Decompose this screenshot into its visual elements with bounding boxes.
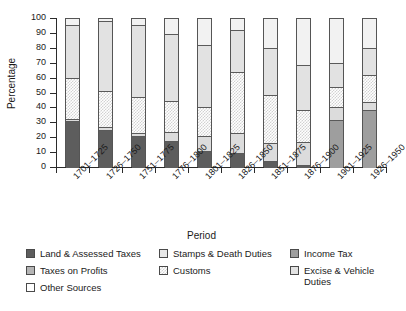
legend-item[interactable]: Customs: [159, 265, 287, 276]
y-tick-label: 70: [0, 58, 46, 67]
y-tick-label: 80: [0, 43, 46, 52]
bar-segment-customs: [132, 98, 145, 134]
bar-segment-excise-vehicle-duties: [297, 66, 310, 111]
legend-swatch-icon: [26, 283, 35, 292]
bar-segment-other-sources: [264, 19, 277, 49]
bar-segment-other-sources: [363, 19, 376, 49]
legend-label: Land & Assessed Taxes: [40, 248, 141, 259]
bar-segment-other-sources: [231, 19, 244, 31]
y-tick-label: 30: [0, 117, 46, 126]
bar-segment-excise-vehicle-duties: [99, 22, 112, 92]
legend-swatch-icon: [290, 249, 299, 258]
legend-label: Customs: [173, 265, 210, 276]
legend-label: Taxes on Profits: [40, 265, 108, 276]
legend-item[interactable]: Income Tax: [290, 248, 390, 259]
legend-column: Income TaxExcise & Vehicle Duties: [290, 248, 390, 293]
y-axis-title: Percentage: [6, 42, 17, 126]
bar-segment-other-sources: [330, 19, 343, 64]
bar-segment-excise-vehicle-duties: [165, 35, 178, 102]
legend-label: Other Sources: [40, 282, 101, 293]
bar-segment-customs: [231, 73, 244, 134]
legend-swatch-icon: [26, 249, 35, 258]
legend-item[interactable]: Land & Assessed Taxes: [26, 248, 154, 259]
bar-1701–1725: [65, 18, 80, 167]
bar-segment-other-sources: [297, 19, 310, 66]
y-tick-label: 0: [0, 162, 46, 171]
bar-segment-customs: [264, 96, 277, 144]
bar-segment-customs: [66, 79, 79, 119]
y-tick-label: 20: [0, 132, 46, 141]
bar-segment-excise-vehicle-duties: [264, 49, 277, 96]
legend-swatch-icon: [159, 249, 168, 258]
legend-item[interactable]: Stamps & Death Duties: [159, 248, 287, 259]
legend-label: Excise & Vehicle Duties: [304, 265, 384, 287]
bar-segment-stamps-death-duties: [330, 108, 343, 121]
bar-segment-stamps-death-duties: [165, 133, 178, 142]
bar-segment-other-sources: [165, 19, 178, 35]
legend-label: Stamps & Death Duties: [173, 248, 272, 259]
legend-column: Stamps & Death DutiesCustoms: [159, 248, 287, 282]
bar-segment-excise-vehicle-duties: [231, 31, 244, 73]
y-tick-label: 100: [0, 13, 46, 22]
bar-segment-customs: [297, 111, 310, 142]
legend-swatch-icon: [290, 266, 299, 275]
legend-item[interactable]: Taxes on Profits: [26, 265, 154, 276]
bar-segment-other-sources: [132, 19, 145, 26]
y-tick-label: 10: [0, 147, 46, 156]
bar-segment-excise-vehicle-duties: [198, 46, 211, 108]
legend-swatch-icon: [159, 266, 168, 275]
bar-segment-excise-vehicle-duties: [363, 49, 376, 76]
legend-column: Land & Assessed TaxesTaxes on ProfitsOth…: [26, 248, 154, 299]
y-tick-label: 90: [0, 28, 46, 37]
bar-segment-excise-vehicle-duties: [66, 26, 79, 80]
bar-segment-stamps-death-duties: [363, 103, 376, 111]
bar-segment-customs: [165, 102, 178, 133]
y-tick-label: 60: [0, 73, 46, 82]
legend-item[interactable]: Other Sources: [26, 282, 154, 293]
bar-segment-other-sources: [198, 19, 211, 46]
bar-segment-excise-vehicle-duties: [330, 64, 343, 88]
y-tick-label: 50: [0, 88, 46, 97]
bar-segment-land-assessed-taxes: [66, 122, 79, 168]
bar-segment-income-tax: [363, 111, 376, 168]
x-axis-title: Period: [0, 230, 403, 241]
x-tick-mark: [56, 168, 57, 173]
bar-segment-customs: [330, 88, 343, 108]
legend-item[interactable]: Excise & Vehicle Duties: [290, 265, 390, 287]
bar-segment-customs: [198, 108, 211, 137]
bar-segment-other-sources: [66, 19, 79, 26]
y-tick-label: 40: [0, 102, 46, 111]
bar-segment-customs: [99, 92, 112, 129]
legend-label: Income Tax: [304, 248, 352, 259]
bar-segment-excise-vehicle-duties: [132, 26, 145, 98]
bar-segment-customs: [363, 76, 376, 104]
legend-swatch-icon: [26, 266, 35, 275]
